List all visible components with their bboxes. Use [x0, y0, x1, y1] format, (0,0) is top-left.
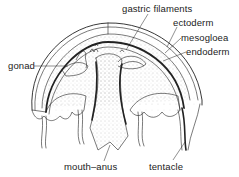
jellyfish-diagram: gastric filaments ectoderm mesogloea end… [0, 0, 239, 177]
label-gastric-filaments: gastric filaments [122, 4, 192, 14]
label-tentacle: tentacle [149, 162, 183, 172]
label-gonad: gonad [8, 61, 35, 71]
label-ectoderm: ectoderm [173, 18, 213, 28]
label-mesogloea: mesogloea [181, 33, 228, 43]
label-endoderm: endoderm [186, 47, 230, 57]
label-mouth-anus: mouth–anus [64, 162, 117, 172]
